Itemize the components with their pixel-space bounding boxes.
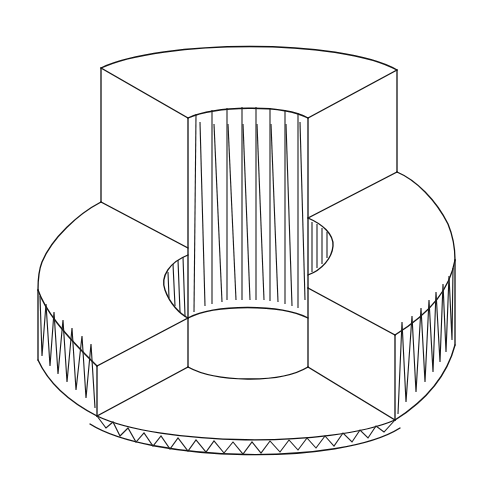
flange-left-top-arc (38, 202, 101, 290)
flange-left-top-front-arc (38, 290, 97, 366)
cut-face-left-top (97, 318, 188, 366)
bore-line-8 (243, 124, 250, 300)
bore-line-1 (194, 114, 196, 312)
boss-top-left-cut (101, 68, 188, 118)
boss-left-bottom-cut (101, 202, 188, 248)
left-rim-zigzag (40, 296, 95, 408)
bore-line-16 (300, 122, 305, 300)
flange-right-top-front-arc (395, 260, 455, 335)
bore-top-arc (188, 108, 308, 118)
flange-left-bottom-arc (38, 360, 97, 416)
boss-top-right-cut (308, 70, 397, 118)
cut-face-right-top (308, 288, 395, 335)
bore-floor-top-arc (188, 308, 308, 319)
flange-right-top-arc (397, 172, 455, 260)
bore-line-10 (257, 124, 264, 300)
flange-rim-hatch (40, 268, 453, 454)
bore-line-12 (271, 124, 278, 302)
cut-face-left-bottom (97, 367, 188, 416)
bore-line-4 (214, 124, 222, 302)
drawing-canvas: Isometric line drawing of a cut-away fla… (0, 0, 484, 498)
bottom-triangle-hatch (97, 416, 395, 454)
bore-line-2 (200, 122, 205, 306)
bore-line-6 (228, 124, 236, 300)
cut-face-right-bottom (308, 367, 395, 420)
bore-ruled-shading (194, 107, 305, 312)
boss-top-arc (101, 47, 397, 71)
right-rim-zigzag (398, 268, 453, 414)
boss-right-bottom-cut (308, 172, 397, 218)
bore-floor-bottom-arc (188, 367, 308, 379)
bore-line-14 (286, 124, 292, 306)
